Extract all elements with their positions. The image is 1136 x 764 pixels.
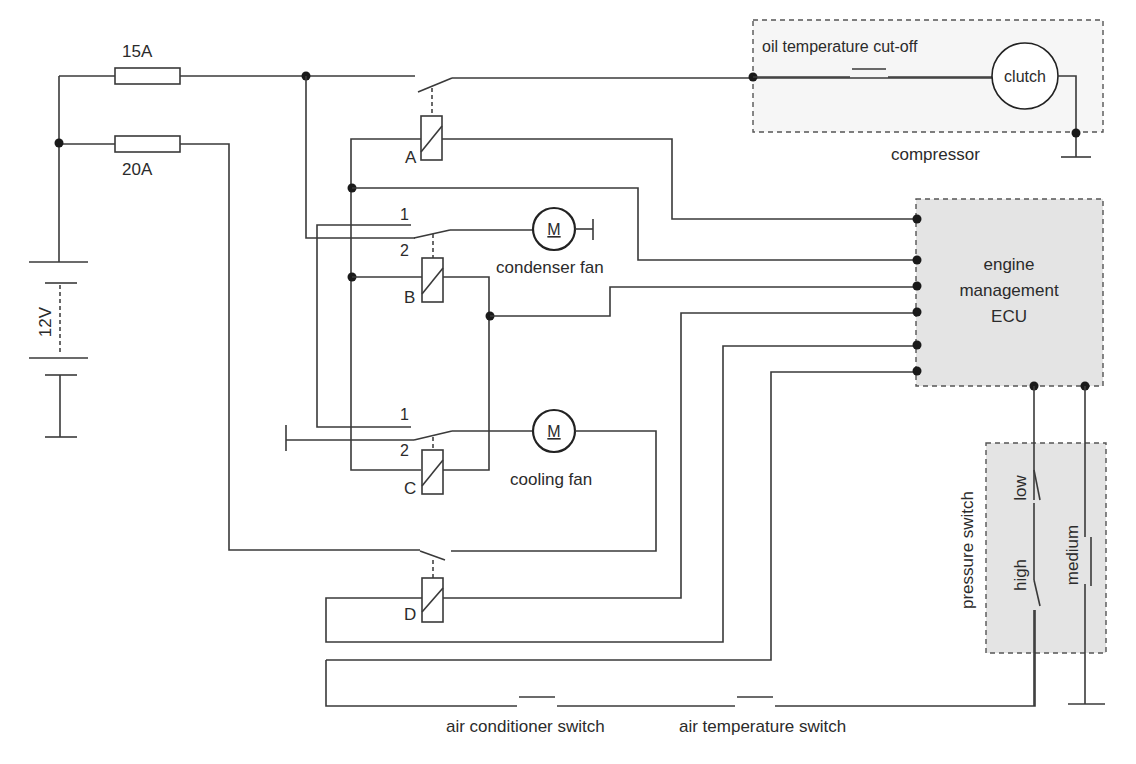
relay-c-label: C (404, 479, 416, 498)
oil-cutoff-label: oil temperature cut-off (762, 38, 918, 55)
pressure-low-label: low (1011, 475, 1030, 501)
wiring-diagram: 15A 20A 12V A B C D 1 2 1 2 M M condense… (0, 0, 1136, 764)
compressor-label: compressor (891, 145, 980, 164)
cooling-fan-label: cooling fan (510, 470, 592, 489)
fuse-15a (115, 68, 180, 84)
relay-d-label: D (404, 605, 416, 624)
pressure-medium-label: medium (1063, 525, 1082, 585)
ac-switch-label: air conditioner switch (446, 717, 605, 736)
pressure-switch-label: pressure switch (958, 491, 977, 609)
ecu-line3: ECU (991, 307, 1027, 326)
fuse-15a-label: 15A (122, 42, 153, 61)
relay-c-contact-1: 1 (400, 406, 409, 423)
ecu-line2: management (959, 281, 1059, 300)
clutch-label: clutch (1004, 68, 1046, 85)
cooling-motor-symbol: M (547, 423, 560, 440)
relay-a-label: A (405, 148, 417, 167)
pressure-high-label: high (1011, 559, 1030, 591)
fuse-20a-label: 20A (122, 160, 153, 179)
ecu-line1: engine (983, 255, 1034, 274)
condenser-fan-label: condenser fan (496, 258, 604, 277)
relay-c-contact-2: 2 (400, 442, 409, 459)
pressure-switch-box (986, 443, 1106, 653)
relay-b-contact-2: 2 (400, 242, 409, 259)
fuse-20a (115, 136, 180, 152)
condenser-motor-symbol: M (547, 221, 560, 238)
battery-label: 12V (36, 306, 55, 337)
air-temp-switch-label: air temperature switch (679, 717, 846, 736)
battery (29, 76, 88, 437)
relay-b-label: B (404, 288, 415, 307)
relay-b-contact-1: 1 (400, 206, 409, 223)
